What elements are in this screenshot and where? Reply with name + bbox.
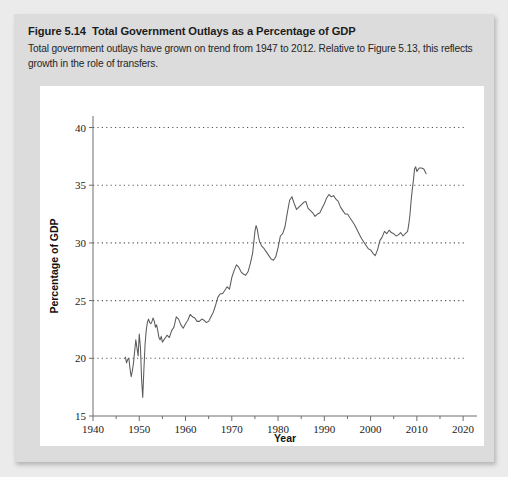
line-chart: 152025303540 194019501960197019801990200…: [40, 86, 484, 446]
svg-text:1960: 1960: [175, 423, 198, 435]
svg-text:40: 40: [75, 122, 87, 134]
figure-container: Figure 5.14 Total Government Outlays as …: [14, 14, 494, 462]
figure-caption: Figure 5.14 Total Government Outlays as …: [28, 24, 480, 71]
page-background: Figure 5.14 Total Government Outlays as …: [0, 0, 508, 477]
svg-text:25: 25: [75, 295, 87, 307]
figure-title-line: Figure 5.14 Total Government Outlays as …: [28, 24, 480, 39]
svg-text:15: 15: [75, 410, 87, 422]
figure-title-text: Total Government Outlays as a Percentage…: [92, 25, 356, 37]
svg-text:1940: 1940: [82, 423, 105, 435]
svg-text:2010: 2010: [406, 423, 429, 435]
svg-text:2020: 2020: [452, 423, 475, 435]
plot-panel: 152025303540 194019501960197019801990200…: [40, 86, 484, 446]
svg-text:1950: 1950: [128, 423, 151, 435]
y-axis-title: Percentage of GDP: [48, 218, 60, 313]
svg-text:2000: 2000: [360, 423, 383, 435]
svg-text:20: 20: [75, 352, 87, 364]
svg-text:35: 35: [75, 179, 87, 191]
svg-text:30: 30: [75, 237, 87, 249]
figure-number: Figure 5.14: [28, 25, 86, 37]
x-axis-title: Year: [274, 432, 296, 444]
data-series-line: [125, 167, 426, 398]
svg-text:1970: 1970: [221, 423, 244, 435]
svg-text:1990: 1990: [313, 423, 336, 435]
y-axis-ticks: 152025303540: [75, 122, 93, 422]
figure-subtitle: Total government outlays have grown on t…: [28, 42, 480, 71]
